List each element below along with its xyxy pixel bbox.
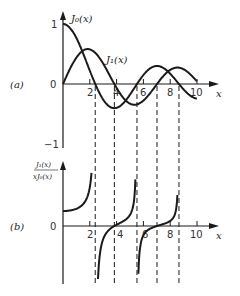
- panel-b-x-arrow-icon: [209, 223, 219, 229]
- panel-b-y-arrow-icon: [60, 161, 66, 170]
- panel-a-xtick-6: 6: [140, 87, 146, 98]
- panel-a-ytick-0: 0: [50, 79, 56, 90]
- panel-b-xtick-2: 2: [87, 229, 93, 240]
- bessel-figure: (a) 1 0 −1 2 4 6 8 10 x J₀(x) J₁(x) (b) …: [0, 0, 240, 296]
- panel-b-x-label: x: [216, 230, 222, 241]
- panel-b-ylabel-denominator: xJ₀(x): [33, 173, 52, 181]
- panel-b-xtick-8: 8: [167, 229, 173, 240]
- panel-a-y-arrow-icon: [60, 11, 66, 20]
- panel-b-label: (b): [10, 221, 24, 232]
- panel-b-ylabel-numerator: J₁(x): [34, 161, 51, 169]
- figure-canvas: (a) 1 0 −1 2 4 6 8 10 x J₀(x) J₁(x) (b) …: [0, 0, 240, 296]
- panel-a-label: (a): [10, 79, 24, 90]
- panel-a-ytick-neg1: −1: [44, 139, 59, 150]
- panel-b-ytick-0: 0: [50, 221, 56, 232]
- panel-b-ticks: [90, 221, 197, 226]
- panel-a-x-label: x: [216, 88, 222, 99]
- panel-a-xtick-2: 2: [87, 87, 93, 98]
- j1-curve: [63, 49, 197, 105]
- panel-a-ticks: [90, 79, 197, 84]
- j1-curve-label: J₁(x): [104, 54, 128, 65]
- panel-a-xtick-8: 8: [167, 87, 173, 98]
- j0-curve: [63, 24, 197, 108]
- dashed-guide-lines: [95, 86, 179, 284]
- panel-a-x-arrow-icon: [209, 81, 219, 87]
- panel-a-ytick-1: 1: [51, 19, 57, 30]
- j0-curve-label: J₀(x): [69, 13, 93, 24]
- panel-b-xtick-10: 10: [190, 229, 203, 240]
- panel-b-xtick-4: 4: [117, 229, 123, 240]
